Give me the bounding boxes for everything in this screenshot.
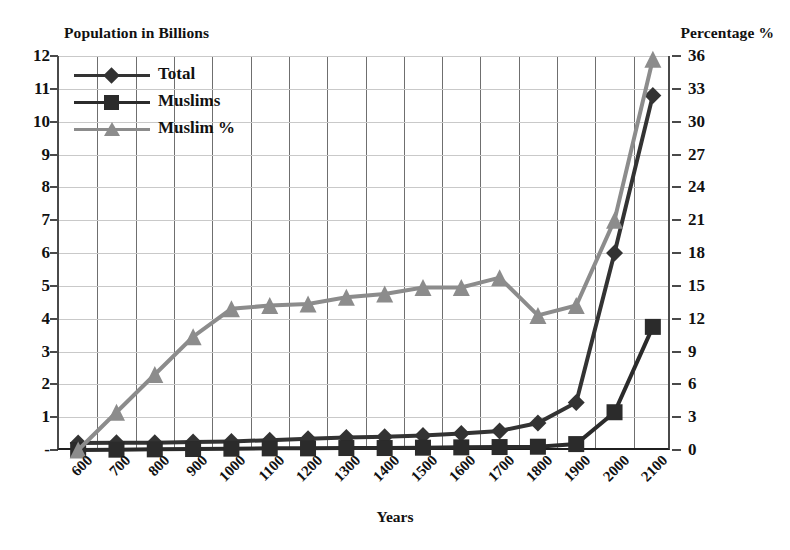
right-axis-tick-mark — [672, 219, 681, 221]
right-axis-tick-mark — [672, 55, 681, 57]
left-axis-tick-label: - — [12, 440, 50, 460]
data-point-marker — [607, 404, 623, 420]
right-axis-tick-label: 15 — [688, 276, 705, 296]
left-axis-tick-label: 5 — [12, 276, 50, 296]
right-axis-tick-label: 33 — [688, 79, 705, 99]
right-axis-tick-mark — [672, 154, 681, 156]
x-axis-tick-label: 1900 — [561, 452, 594, 485]
population-chart: Population in Billions Percentage % -123… — [0, 0, 790, 550]
right-axis-tick-mark — [672, 252, 681, 254]
left-axis: -123456789101112 — [0, 56, 50, 450]
right-axis-tick-mark — [672, 416, 681, 418]
x-axis-title: Years — [0, 508, 790, 526]
right-axis-tick-mark — [672, 449, 681, 451]
data-point-marker — [568, 436, 584, 452]
right-axis: 0369121518212427303336 — [672, 56, 782, 450]
right-axis-tick-label: 12 — [688, 309, 705, 329]
legend-label: Muslim % — [158, 116, 235, 140]
data-point-marker — [644, 51, 661, 68]
left-axis-tick-label: 3 — [12, 342, 50, 362]
x-axis-tick-label: 2100 — [638, 452, 671, 485]
right-axis-tick-mark — [672, 88, 681, 90]
legend-item[interactable]: Total — [70, 62, 238, 88]
x-axis-tick-label: 1000 — [216, 452, 249, 485]
right-axis-tick-label: 9 — [688, 342, 697, 362]
x-axis-tick-label: 1200 — [293, 452, 326, 485]
right-axis-tick-label: 3 — [688, 407, 697, 427]
right-axis-tick-mark — [672, 318, 681, 320]
right-axis-tick-mark — [672, 186, 681, 188]
right-axis-tick-label: 18 — [688, 243, 705, 263]
x-axis-tick-label: 600 — [68, 452, 96, 480]
right-axis-tick-label: 21 — [688, 210, 705, 230]
x-axis-tick-label: 700 — [107, 452, 135, 480]
x-axis-tick-label: 1700 — [484, 452, 517, 485]
left-axis-tick-label: 6 — [12, 243, 50, 263]
right-axis-tick-label: 27 — [688, 145, 705, 165]
left-axis-tick-label: 9 — [12, 145, 50, 165]
x-axis-tick-label: 1300 — [331, 452, 364, 485]
right-axis-tick-label: 24 — [688, 177, 705, 197]
data-point-marker — [491, 422, 508, 439]
right-axis-tick-mark — [672, 121, 681, 123]
data-point-marker — [606, 245, 623, 262]
legend-item[interactable]: Muslim % — [70, 116, 238, 142]
right-axis-tick-mark — [672, 285, 681, 287]
legend-label: Total — [158, 62, 195, 86]
left-axis-tick-label: 8 — [12, 177, 50, 197]
right-axis-tick-label: 0 — [688, 440, 697, 460]
left-axis-tick-label: 1 — [12, 407, 50, 427]
left-axis-tick-label: 4 — [12, 309, 50, 329]
right-axis-tick-label: 30 — [688, 112, 705, 132]
right-axis-tick-label: 36 — [688, 46, 705, 66]
chart-legend: TotalMuslimsMuslim % — [70, 62, 238, 144]
x-axis-tick-label: 900 — [183, 452, 211, 480]
data-point-marker — [645, 319, 661, 335]
x-axis-tick-label: 800 — [145, 452, 173, 480]
x-axis-tick-label: 1400 — [369, 452, 402, 485]
x-axis-tick-label: 1100 — [255, 452, 288, 485]
right-axis-tick-label: 6 — [688, 374, 697, 394]
legend-triangle-icon — [104, 122, 120, 136]
right-axis-tick-mark — [672, 351, 681, 353]
x-axis-tick-label: 1600 — [446, 452, 479, 485]
right-axis-title: Percentage % — [681, 24, 774, 42]
left-axis-tick-label: 7 — [12, 210, 50, 230]
x-axis-tick-label: 2000 — [599, 452, 632, 485]
left-axis-tick-label: 12 — [12, 46, 50, 66]
legend-square-icon — [104, 95, 119, 110]
right-axis-tick-mark — [672, 383, 681, 385]
series-line — [78, 95, 653, 443]
legend-item[interactable]: Muslims — [70, 89, 238, 115]
left-axis-tick-label: 10 — [12, 112, 50, 132]
x-axis-tick-label: 1500 — [408, 452, 441, 485]
x-axis-tick-label: 1800 — [523, 452, 556, 485]
left-axis-tick-label: 11 — [12, 79, 50, 99]
legend-diamond-icon — [103, 67, 120, 84]
series-line — [78, 327, 653, 450]
left-axis-title: Population in Billions — [64, 24, 209, 42]
legend-label: Muslims — [158, 89, 220, 113]
left-axis-tick-label: 2 — [12, 374, 50, 394]
data-point-marker — [568, 394, 585, 411]
data-point-marker — [529, 415, 546, 432]
